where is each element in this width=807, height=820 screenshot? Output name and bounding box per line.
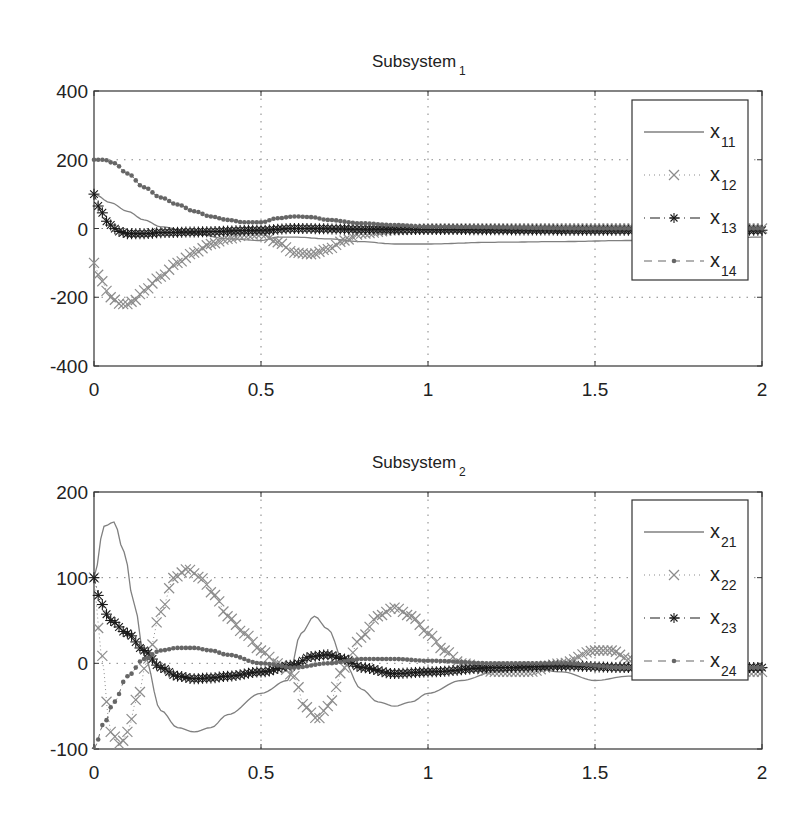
y-tick-label: -200 — [50, 287, 88, 308]
y-tick-label: 200 — [56, 150, 88, 171]
y-tick-label: 200 — [56, 482, 88, 503]
plot-subsystem-2: Subsystem2 00.511.522001000-100 x21x22x2… — [50, 453, 768, 783]
legend: x11x12x13x14 — [632, 100, 748, 280]
x-tick-label: 1 — [423, 762, 434, 783]
y-tick-label: -100 — [50, 739, 88, 760]
y-tick-label: 0 — [77, 653, 88, 674]
x-tick-label: 1.5 — [582, 762, 608, 783]
x-tick-label: 1.5 — [582, 379, 608, 400]
x-tick-label: 2 — [757, 762, 768, 783]
x-tick-label: 0.5 — [248, 762, 274, 783]
legend: x21x22x23x24 — [632, 500, 748, 680]
plot-subsystem-1: Subsystem1 00.511.524002000-200-400 x11x… — [50, 52, 768, 400]
x-tick-label: 2 — [757, 379, 768, 400]
x-tick-label: 0 — [89, 762, 100, 783]
x-tick-label: 0 — [89, 379, 100, 400]
plot-title: Subsystem1 — [372, 52, 466, 78]
y-tick-label: 400 — [56, 81, 88, 102]
y-tick-label: -400 — [50, 356, 88, 377]
x-tick-label: 1 — [423, 379, 434, 400]
y-tick-label: 0 — [77, 219, 88, 240]
x-tick-label: 0.5 — [248, 379, 274, 400]
y-tick-label: 100 — [56, 568, 88, 589]
plot-title: Subsystem2 — [372, 453, 466, 479]
chart-figure: Subsystem1 00.511.524002000-200-400 x11x… — [0, 0, 807, 820]
